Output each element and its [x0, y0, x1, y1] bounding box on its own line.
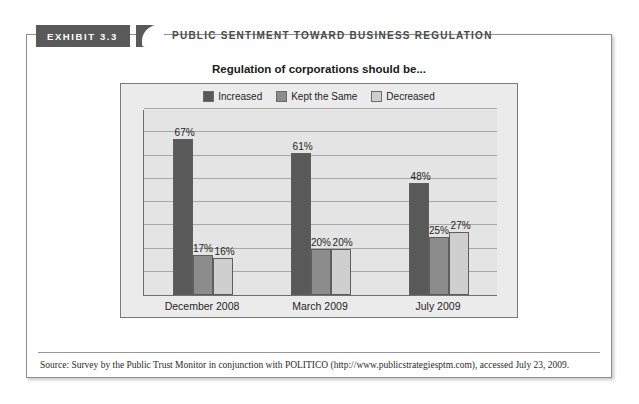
bar-value-label: 25% — [429, 225, 449, 236]
bar-decreased[interactable] — [213, 258, 233, 295]
bar-value-label: 27% — [451, 220, 471, 231]
bar-value-label: 61% — [293, 141, 313, 152]
gridline — [144, 108, 497, 109]
bar-value-label: 20% — [333, 237, 353, 248]
bar-slot: 48% — [409, 110, 429, 295]
bar-value-label: 20% — [311, 237, 331, 248]
bar-slot: 16% — [213, 110, 233, 295]
source-divider — [38, 352, 600, 353]
bar-kept-the-same[interactable] — [311, 249, 331, 296]
plot-area: 67%17%16%61%20%20%48%25%27% — [143, 110, 497, 296]
bar-slot: 61% — [291, 110, 311, 295]
x-axis-tick-label: March 2009 — [292, 300, 347, 312]
exhibit-tab: EXHIBIT 3.3 — [36, 25, 130, 47]
exhibit-tab-curve — [136, 25, 162, 47]
bar-group: 61%20%20% — [262, 110, 380, 295]
exhibit-tab-label: EXHIBIT 3.3 — [47, 31, 118, 42]
bar-slot: 20% — [331, 110, 351, 295]
bar-value-label: 16% — [215, 246, 235, 257]
bar-increased[interactable] — [291, 153, 311, 295]
bar-slot: 27% — [449, 110, 469, 295]
exhibit-header-title: PUBLIC SENTIMENT TOWARD BUSINESS REGULAT… — [172, 30, 493, 41]
bar-slot: 67% — [173, 110, 193, 295]
legend-swatch-increased — [203, 91, 214, 102]
bar-group: 67%17%16% — [144, 110, 262, 295]
chart-legend: Increased Kept the Same Decreased — [121, 84, 517, 108]
bar-kept-the-same[interactable] — [429, 237, 449, 295]
x-axis-tick-label: December 2008 — [165, 300, 240, 312]
bar-slot: 25% — [429, 110, 449, 295]
legend-label-kept-the-same: Kept the Same — [291, 91, 357, 102]
bar-value-label: 67% — [175, 127, 195, 138]
bar-kept-the-same[interactable] — [193, 255, 213, 295]
legend-swatch-kept-the-same — [276, 91, 287, 102]
legend-item-kept-the-same: Kept the Same — [276, 91, 357, 102]
legend-label-increased: Increased — [218, 91, 262, 102]
legend-item-decreased: Decreased — [371, 91, 434, 102]
legend-swatch-decreased — [371, 91, 382, 102]
bar-value-label: 48% — [411, 171, 431, 182]
bar-value-label: 17% — [193, 243, 213, 254]
bar-decreased[interactable] — [449, 232, 469, 295]
bar-slot: 20% — [311, 110, 331, 295]
bar-decreased[interactable] — [331, 249, 351, 296]
bar-increased[interactable] — [173, 139, 193, 295]
source-note: Source: Survey by the Public Trust Monit… — [40, 360, 606, 370]
chart-title: Regulation of corporations should be... — [27, 63, 611, 75]
bar-increased[interactable] — [409, 183, 429, 295]
bar-group: 48%25%27% — [380, 110, 498, 295]
x-axis-tick-label: July 2009 — [416, 300, 461, 312]
legend-label-decreased: Decreased — [386, 91, 434, 102]
chart-container: Increased Kept the Same Decreased 67%17%… — [120, 83, 518, 318]
legend-item-increased: Increased — [203, 91, 262, 102]
bar-slot: 17% — [193, 110, 213, 295]
